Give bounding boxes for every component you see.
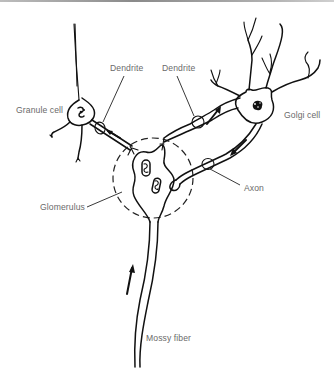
leader-glomerulus [87,192,122,207]
glomerulus-diagram [0,0,334,374]
leader-dendrite-right [177,76,194,116]
granule-dendrite-arrow [106,130,120,138]
glomerulus-boundary [113,138,193,218]
label-granule-cell: Granule cell [16,106,63,115]
mossy-fiber-arrow [127,264,135,294]
label-dendrite-right: Dendrite [162,64,195,73]
leader-axon [210,169,240,185]
label-mossy-fiber: Mossy fiber [146,334,191,343]
label-golgi-cell: Golgi cell [284,111,320,120]
label-dendrite-left: Dendrite [110,64,143,73]
label-glomerulus: Glomerulus [40,203,85,212]
leader-dendrite-left [103,76,124,122]
label-axon: Axon [244,184,264,193]
granule-cell [50,24,138,162]
golgi-cell [160,18,320,191]
